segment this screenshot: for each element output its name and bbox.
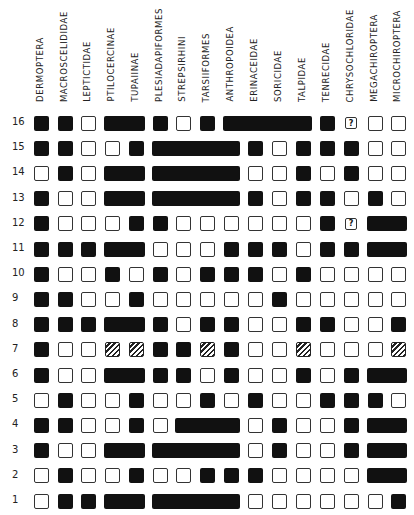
filled-square xyxy=(34,418,49,433)
column-header-talpidae: TALPIDAE xyxy=(298,57,307,102)
filled-square xyxy=(200,116,215,131)
empty-square xyxy=(368,116,383,131)
empty-square xyxy=(272,342,287,357)
empty-square xyxy=(248,216,263,231)
filled-square xyxy=(58,393,73,408)
empty-square xyxy=(81,368,96,383)
empty-square xyxy=(344,191,359,206)
empty-square xyxy=(320,494,335,509)
empty-square xyxy=(272,494,287,509)
column-header-ptilocercinae: PTILOCERCINAE xyxy=(107,27,116,102)
row-label-1: 1 xyxy=(12,495,30,505)
filled-square xyxy=(344,242,359,257)
filled-square xyxy=(81,242,96,257)
filled-square xyxy=(81,317,96,332)
row-label-5: 5 xyxy=(12,394,30,404)
filled-square xyxy=(224,468,239,483)
column-header-tarsiiformes: TARSIIFORMES xyxy=(202,33,211,102)
empty-square xyxy=(58,368,73,383)
row-label-11: 11 xyxy=(12,243,30,253)
row-label-9: 9 xyxy=(12,293,30,303)
empty-square xyxy=(248,418,263,433)
filled-bar xyxy=(104,191,145,206)
empty-square xyxy=(81,267,96,282)
empty-square xyxy=(391,393,406,408)
row-label-2: 2 xyxy=(12,470,30,480)
empty-square xyxy=(176,242,191,257)
filled-square xyxy=(34,267,49,282)
filled-square xyxy=(176,368,191,383)
filled-square xyxy=(344,166,359,181)
filled-square xyxy=(153,116,168,131)
filled-bar xyxy=(367,368,407,383)
column-header-megachiroptera: MEGACHIROPTERA xyxy=(370,14,379,102)
filled-square xyxy=(176,342,191,357)
empty-square xyxy=(296,242,311,257)
empty-square xyxy=(105,216,120,231)
empty-square xyxy=(176,468,191,483)
filled-bar xyxy=(367,418,407,433)
empty-square xyxy=(248,317,263,332)
column-header-microchiroptera: MICROCHIROPTERA xyxy=(393,10,402,102)
empty-square xyxy=(176,317,191,332)
filled-square xyxy=(34,141,49,156)
empty-square xyxy=(272,317,287,332)
filled-square xyxy=(58,292,73,307)
filled-square xyxy=(153,216,168,231)
filled-square xyxy=(248,267,263,282)
empty-square xyxy=(248,342,263,357)
filled-square xyxy=(34,342,49,357)
empty-square xyxy=(391,267,406,282)
column-header-tenrecidae: TENRECIDAE xyxy=(322,42,331,102)
empty-square xyxy=(368,141,383,156)
filled-square xyxy=(248,242,263,257)
empty-square xyxy=(105,393,120,408)
empty-square xyxy=(200,368,215,383)
empty-square xyxy=(272,141,287,156)
filled-bar xyxy=(152,166,240,181)
question-square: ? xyxy=(345,218,357,230)
filled-square xyxy=(248,191,263,206)
filled-square xyxy=(272,443,287,458)
filled-square xyxy=(224,317,239,332)
filled-square xyxy=(200,468,215,483)
empty-square xyxy=(81,393,96,408)
row-label-13: 13 xyxy=(12,193,30,203)
empty-square xyxy=(296,418,311,433)
filled-square xyxy=(344,141,359,156)
filled-square xyxy=(200,393,215,408)
filled-square xyxy=(344,443,359,458)
empty-square xyxy=(34,468,49,483)
empty-square xyxy=(200,242,215,257)
row-label-14: 14 xyxy=(12,167,30,177)
empty-square xyxy=(368,166,383,181)
empty-square xyxy=(248,368,263,383)
empty-square xyxy=(224,393,239,408)
empty-square xyxy=(368,494,383,509)
filled-square xyxy=(224,368,239,383)
empty-square xyxy=(58,443,73,458)
filled-bar xyxy=(367,443,407,458)
empty-square xyxy=(81,166,96,181)
filled-square xyxy=(34,191,49,206)
filled-bar xyxy=(223,116,312,131)
filled-square xyxy=(272,418,287,433)
filled-bar xyxy=(104,242,145,257)
filled-square xyxy=(153,368,168,383)
empty-square xyxy=(153,418,168,433)
empty-square xyxy=(344,342,359,357)
empty-square xyxy=(368,317,383,332)
empty-square xyxy=(58,191,73,206)
filled-bar xyxy=(104,166,145,181)
empty-square xyxy=(81,342,96,357)
filled-square xyxy=(224,342,239,357)
filled-square xyxy=(58,468,73,483)
filled-bar xyxy=(104,116,145,131)
empty-square xyxy=(272,368,287,383)
empty-square xyxy=(81,443,96,458)
filled-square xyxy=(296,191,311,206)
empty-square xyxy=(320,342,335,357)
filled-square xyxy=(153,342,168,357)
empty-square xyxy=(58,342,73,357)
filled-square xyxy=(320,393,335,408)
